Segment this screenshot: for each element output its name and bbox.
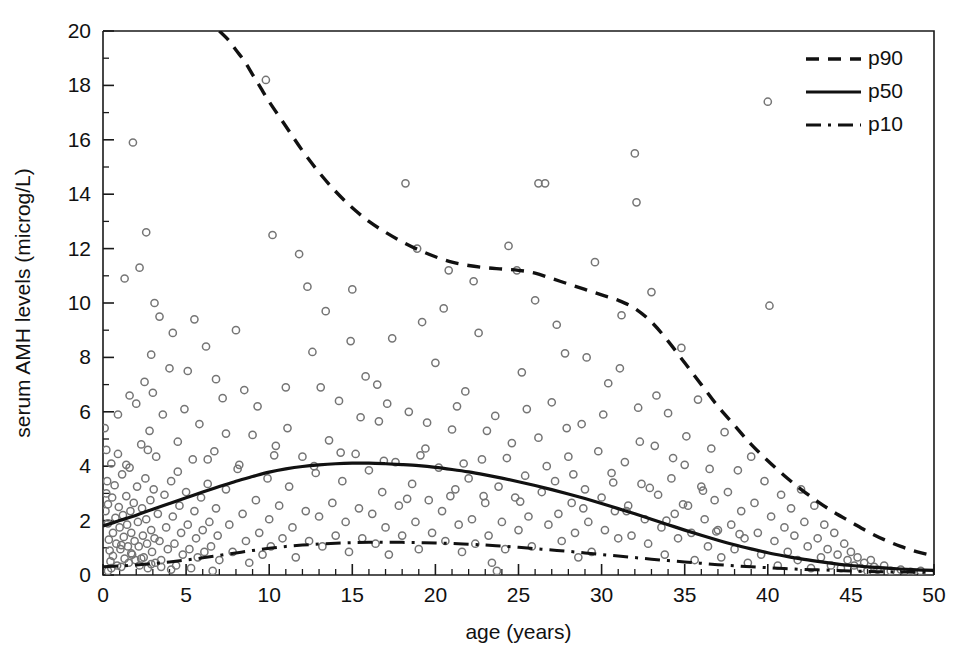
data-point: [124, 521, 131, 528]
data-point: [821, 521, 828, 528]
data-point: [669, 454, 676, 461]
data-point: [362, 373, 369, 380]
data-point: [543, 463, 550, 470]
data-point: [189, 456, 196, 463]
data-point: [804, 543, 811, 550]
data-point: [668, 475, 675, 482]
x-tick-label: 40: [756, 583, 779, 606]
data-point: [375, 418, 382, 425]
data-point: [616, 365, 623, 372]
data-point: [312, 469, 319, 476]
data-point: [608, 469, 615, 476]
data-point: [232, 327, 239, 334]
data-point: [292, 554, 299, 561]
data-point: [279, 535, 286, 542]
data-point: [834, 551, 841, 558]
x-axis-title: age (years): [465, 620, 571, 643]
data-point: [478, 456, 485, 463]
data-point: [219, 395, 226, 402]
data-point: [591, 259, 598, 266]
data-point: [615, 535, 622, 542]
data-point: [254, 403, 261, 410]
data-point: [515, 527, 522, 534]
data-point: [128, 529, 135, 536]
data-point: [315, 513, 322, 520]
data-point: [136, 264, 143, 271]
data-point: [581, 486, 588, 493]
data-point: [448, 426, 455, 433]
data-point: [462, 388, 469, 395]
data-point: [565, 453, 572, 460]
data-point: [127, 507, 134, 514]
data-point: [568, 499, 575, 506]
data-point: [653, 392, 660, 399]
data-point: [148, 548, 155, 555]
data-point: [648, 289, 655, 296]
data-point: [181, 405, 188, 412]
data-point: [212, 376, 219, 383]
data-point: [199, 527, 206, 534]
data-point: [163, 524, 170, 531]
data-point: [561, 350, 568, 357]
data-point: [468, 516, 475, 523]
data-point: [417, 452, 424, 459]
data-point: [628, 532, 635, 539]
data-point: [179, 551, 186, 558]
data-point: [841, 540, 848, 547]
data-point: [738, 507, 745, 514]
data-point: [130, 499, 137, 506]
data-point: [563, 425, 570, 432]
data-point: [115, 503, 122, 510]
data-point: [492, 412, 499, 419]
data-point: [149, 389, 156, 396]
data-point: [359, 535, 366, 542]
data-point: [204, 480, 211, 487]
data-point: [206, 518, 213, 525]
data-point: [754, 529, 761, 536]
data-point: [532, 297, 539, 304]
data-point: [262, 76, 269, 83]
data-point: [138, 441, 145, 448]
data-point: [445, 267, 452, 274]
data-point: [176, 502, 183, 509]
data-point: [246, 559, 253, 566]
data-point: [134, 518, 141, 525]
data-point: [518, 369, 525, 376]
data-point: [704, 543, 711, 550]
data-point: [517, 498, 524, 505]
data-point: [349, 286, 356, 293]
data-point: [352, 450, 359, 457]
data-point: [269, 231, 276, 238]
data-point: [256, 529, 263, 536]
data-point: [342, 518, 349, 525]
legend-label-p10: p10: [868, 112, 903, 135]
x-tick-label: 35: [673, 583, 696, 606]
data-point: [369, 510, 376, 517]
data-point: [465, 475, 472, 482]
data-point: [121, 275, 128, 282]
data-point: [335, 397, 342, 404]
data-point: [101, 425, 108, 432]
curve-p90: [219, 31, 934, 556]
data-point: [156, 313, 163, 320]
data-point: [272, 442, 279, 449]
data-point: [289, 524, 296, 531]
data-point: [505, 242, 512, 249]
data-point: [385, 551, 392, 558]
data-point: [811, 502, 818, 509]
legend: p90p50p10: [806, 46, 903, 135]
data-point: [764, 98, 771, 105]
data-point: [817, 554, 824, 561]
data-point: [159, 411, 166, 418]
data-point: [109, 494, 116, 501]
data-point: [583, 354, 590, 361]
data-point: [724, 488, 731, 495]
data-point: [409, 480, 416, 487]
data-point: [196, 420, 203, 427]
data-point: [114, 411, 121, 418]
data-point: [460, 460, 467, 467]
data-point: [553, 321, 560, 328]
x-tick-label: 5: [180, 583, 192, 606]
data-point: [296, 250, 303, 257]
data-point: [595, 448, 602, 455]
